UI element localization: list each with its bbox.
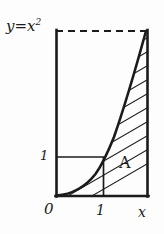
parabola-area-figure <box>0 0 164 234</box>
function-label: y=x2 <box>6 18 41 34</box>
parabola-curve-icon <box>57 31 147 196</box>
x-axis-label: x <box>138 205 146 219</box>
function-label-base: y=x <box>6 17 36 35</box>
function-label-exponent: 2 <box>36 17 42 27</box>
y-axis-tick-label-one: 1 <box>40 149 48 162</box>
area-region-label: A <box>119 155 131 171</box>
origin-label: 0 <box>44 202 54 217</box>
x-axis-tick-label-one: 1 <box>96 203 105 217</box>
figure-container: y=x2 1 0 1 x A <box>0 0 164 234</box>
